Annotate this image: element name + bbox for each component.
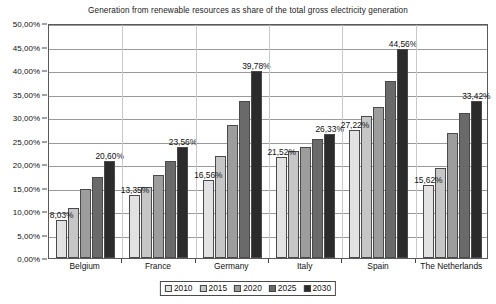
chart-legend: 20102015202020252030	[160, 281, 336, 296]
legend-item[interactable]: 2010	[165, 283, 193, 293]
bar-group-bars	[416, 25, 489, 258]
bar-value-label: 15,62%	[414, 175, 442, 185]
bar[interactable]	[312, 139, 323, 258]
bar-value-label: 26,33%	[315, 124, 343, 134]
legend-swatch-icon	[200, 285, 207, 292]
bar-group-bars	[196, 25, 269, 258]
legend-item[interactable]: 2015	[200, 283, 228, 293]
bar[interactable]	[423, 185, 434, 258]
legend-item[interactable]: 2025	[269, 283, 297, 293]
y-axis-tick	[42, 94, 47, 95]
bar-group	[49, 25, 122, 258]
y-axis-tick	[42, 235, 47, 236]
legend-label: 2025	[278, 283, 297, 293]
plot-area: 8,03%20,60%13,35%23,56%16,56%39,78%21,52…	[48, 24, 488, 259]
y-axis-tick	[42, 212, 47, 213]
bar[interactable]	[203, 180, 214, 258]
bar[interactable]	[349, 130, 360, 258]
bar-value-label: 33,42%	[462, 91, 490, 101]
y-axis-tick	[42, 188, 47, 189]
bar-value-label: 39,78%	[242, 61, 270, 71]
legend-swatch-icon	[165, 285, 172, 292]
bar[interactable]	[104, 161, 115, 258]
bar[interactable]	[385, 81, 396, 258]
y-axis-tick-label: 50,00%	[13, 20, 40, 29]
legend-label: 2010	[174, 283, 193, 293]
bar[interactable]	[397, 49, 408, 258]
y-axis-tick	[42, 24, 47, 25]
bar-group	[342, 25, 415, 258]
bar[interactable]	[141, 187, 152, 258]
bar[interactable]	[251, 71, 262, 258]
y-axis-tick	[42, 71, 47, 72]
y-axis-tick-label: 25,00%	[13, 137, 40, 146]
y-axis-tick-label: 45,00%	[13, 43, 40, 52]
y-axis-tick-label: 30,00%	[13, 114, 40, 123]
x-axis-tick-label: Germany	[214, 261, 248, 271]
x-axis-tick	[195, 259, 196, 263]
bar-group	[269, 25, 342, 258]
y-axis-tick-label: 40,00%	[13, 67, 40, 76]
y-axis-tick-label: 35,00%	[13, 90, 40, 99]
y-axis-tick-label: 0,00%	[17, 255, 40, 264]
bar[interactable]	[80, 189, 91, 258]
x-axis-tick	[415, 259, 416, 263]
bar[interactable]	[300, 147, 311, 258]
bar[interactable]	[471, 101, 482, 258]
y-axis-tick-label: 15,00%	[13, 184, 40, 193]
bar[interactable]	[276, 157, 287, 258]
chart-container: Generation from renewable resources as s…	[0, 0, 496, 304]
bar-value-label: 20,60%	[95, 151, 123, 161]
y-axis: 0,00%5,00%10,00%15,00%20,00%25,00%30,00%…	[0, 24, 46, 259]
bar[interactable]	[239, 101, 250, 258]
bar[interactable]	[361, 116, 372, 258]
bar-value-label: 44,56%	[389, 39, 417, 49]
bar[interactable]	[227, 125, 238, 258]
legend-swatch-icon	[303, 285, 310, 292]
bar-value-label: 13,35%	[121, 185, 149, 195]
y-axis-tick-label: 10,00%	[13, 208, 40, 217]
y-axis-tick-label: 20,00%	[13, 161, 40, 170]
x-axis-tick-label: France	[145, 261, 171, 271]
legend-label: 2020	[243, 283, 262, 293]
bar[interactable]	[92, 177, 103, 258]
bar[interactable]	[153, 175, 164, 258]
bar-value-label: 23,56%	[169, 137, 197, 147]
bar-group	[196, 25, 269, 258]
legend-swatch-icon	[269, 285, 276, 292]
bar-group-bars	[342, 25, 415, 258]
y-axis-tick	[42, 47, 47, 48]
y-axis-tick	[42, 165, 47, 166]
bar[interactable]	[288, 151, 299, 258]
bar-group-bars	[269, 25, 342, 258]
bar[interactable]	[129, 195, 140, 258]
x-axis-tick	[341, 259, 342, 263]
x-axis-tick-label: Spain	[367, 261, 388, 271]
legend-swatch-icon	[234, 285, 241, 292]
x-axis-tick	[268, 259, 269, 263]
legend-item[interactable]: 2030	[303, 283, 331, 293]
y-axis-tick	[42, 259, 47, 260]
bar-value-label: 8,03%	[50, 210, 74, 220]
x-axis-tick-label: The Netherlands	[420, 261, 482, 271]
bar[interactable]	[447, 133, 458, 258]
y-axis-tick	[42, 118, 47, 119]
bar[interactable]	[324, 134, 335, 258]
bar[interactable]	[56, 220, 67, 258]
bar[interactable]	[165, 161, 176, 258]
bar[interactable]	[177, 147, 188, 258]
bar[interactable]	[459, 113, 470, 258]
x-axis: BelgiumFranceGermanyItalySpainThe Nether…	[48, 261, 488, 277]
x-axis-tick-label: Italy	[297, 261, 312, 271]
legend-item[interactable]: 2020	[234, 283, 262, 293]
legend-label: 2015	[209, 283, 228, 293]
x-axis-tick	[121, 259, 122, 263]
bar-group-bars	[49, 25, 122, 258]
y-axis-tick	[42, 141, 47, 142]
bar-group	[416, 25, 489, 258]
chart-title: Generation from renewable resources as s…	[0, 6, 496, 15]
bar[interactable]	[373, 107, 384, 258]
x-axis-tick-label: Belgium	[70, 261, 100, 271]
y-axis-tick-label: 5,00%	[17, 231, 40, 240]
bar-value-label: 21,52%	[267, 147, 295, 157]
